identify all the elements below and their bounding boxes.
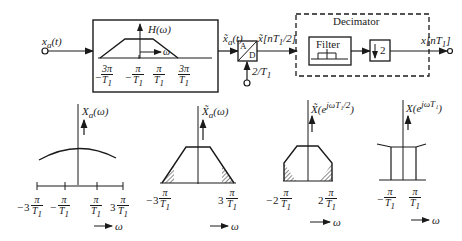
output-label: x[nT1]	[421, 35, 451, 49]
coef: −	[266, 195, 272, 206]
coef: −	[50, 202, 56, 213]
s1-tick-neg-pi: πT1	[58, 195, 70, 219]
s2-omega: ω	[231, 221, 239, 232]
coef: −	[146, 195, 152, 206]
xa-filtered-spectrum-label: X̃a(ω)	[202, 106, 228, 120]
s1-tick-pi: πT1	[90, 195, 102, 219]
coef: 3	[110, 202, 116, 213]
coef: 3	[24, 202, 30, 213]
coef: 3	[153, 195, 159, 206]
h-omega-label: H(ω)	[148, 24, 171, 35]
sampled-spectrum-label: X̃(ejωT₁/2)	[311, 101, 354, 115]
s1-tick-3pi: πT1	[117, 195, 129, 219]
s1-tick-neg-3pi: πT1	[31, 195, 43, 219]
decimated-spectrum-label: X(ejωT₁)	[406, 100, 442, 114]
xa-spectrum-label: Xa(ω)	[82, 106, 108, 120]
coef: −	[17, 202, 23, 213]
spectrum-xa-filtered	[160, 106, 236, 226]
decimator-title: Decimator	[333, 16, 379, 27]
tick-pi: πT1	[153, 64, 165, 88]
coef: 2	[273, 195, 279, 206]
filter-omega-label: ω	[163, 47, 170, 57]
adc-a-label: A	[240, 42, 247, 51]
s4-omega: ω	[432, 215, 440, 226]
output-terminal	[448, 49, 453, 54]
downsample-factor: 2	[380, 45, 386, 56]
coef: 3	[218, 195, 224, 206]
s2-tick-neg-3pi: πT1	[159, 188, 171, 212]
minus-sign: −	[95, 72, 101, 83]
s3-omega: ω	[333, 217, 341, 228]
filter-label: Filter	[316, 39, 340, 50]
coef: −	[377, 194, 383, 205]
s4-tick-neg-pi: πT1	[384, 187, 396, 211]
input-label: xa(t)	[42, 36, 62, 50]
adc-d-label: D	[249, 51, 256, 60]
adc-rate-label: 2/T1	[252, 66, 271, 80]
coef: 2	[318, 195, 324, 206]
tick-neg-pi: πT1	[132, 64, 144, 88]
s4-tick-pi: πT1	[409, 187, 421, 211]
sampled-signal-label: x̃[nT1/2]	[258, 33, 296, 47]
s2-tick-3pi: πT1	[226, 188, 238, 212]
s3-tick-2pi: πT1	[325, 188, 337, 212]
tick-3pi: 3πT1	[178, 64, 190, 88]
s3-tick-neg-2pi: πT1	[280, 188, 292, 212]
s1-omega: ω	[115, 221, 123, 232]
minus-sign: −	[125, 72, 131, 83]
tick-neg-3pi: 3πT1	[101, 64, 113, 88]
